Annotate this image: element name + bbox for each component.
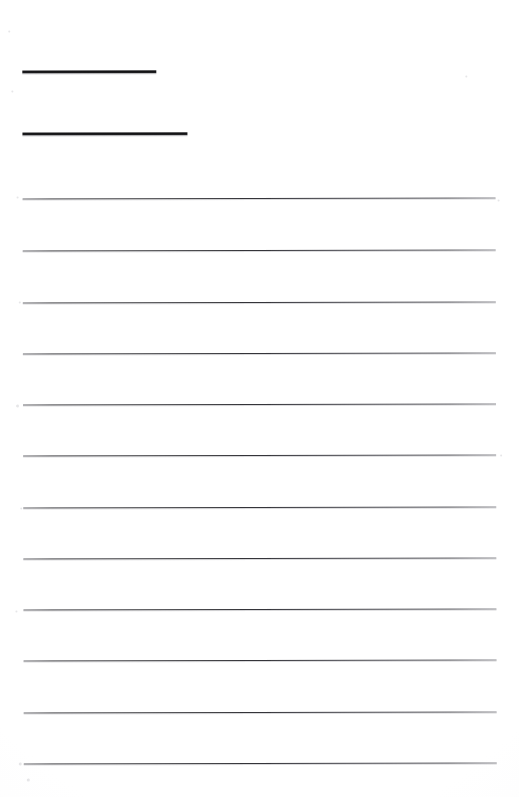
scan-skew-layer [0,0,519,797]
scan-speckle-8 [11,91,13,93]
rule-line-7[interactable] [23,507,496,509]
scan-speckle-6 [19,762,22,765]
scan-speckle-layer [0,0,518,1]
header-rule-2[interactable] [22,132,187,135]
scan-speckle-11 [500,454,502,456]
rule-line-5[interactable] [23,404,496,406]
scan-speckle-7 [8,31,10,33]
rule-line-11[interactable] [24,712,497,714]
header-rule-1[interactable] [22,70,156,73]
rule-line-8[interactable] [23,558,496,560]
ruled-writing-lines [0,0,518,1]
scan-speckle-1 [17,197,19,199]
scan-speckle-12 [27,778,30,781]
scan-speckle-10 [498,199,500,201]
scanned-page [0,0,519,797]
scan-speckle-9 [465,76,467,78]
scan-speckle-2 [19,301,21,303]
scan-speckle-3 [16,405,19,408]
rule-line-3[interactable] [23,302,496,304]
rule-line-12[interactable] [24,763,497,765]
rule-line-6[interactable] [23,455,496,457]
rule-line-4[interactable] [23,353,496,355]
scan-speckle-5 [15,611,17,613]
rule-line-9[interactable] [23,609,496,611]
scan-speckle-4 [20,507,22,509]
rule-line-2[interactable] [23,250,496,252]
rule-line-10[interactable] [24,660,497,662]
rule-line-1[interactable] [23,198,496,200]
